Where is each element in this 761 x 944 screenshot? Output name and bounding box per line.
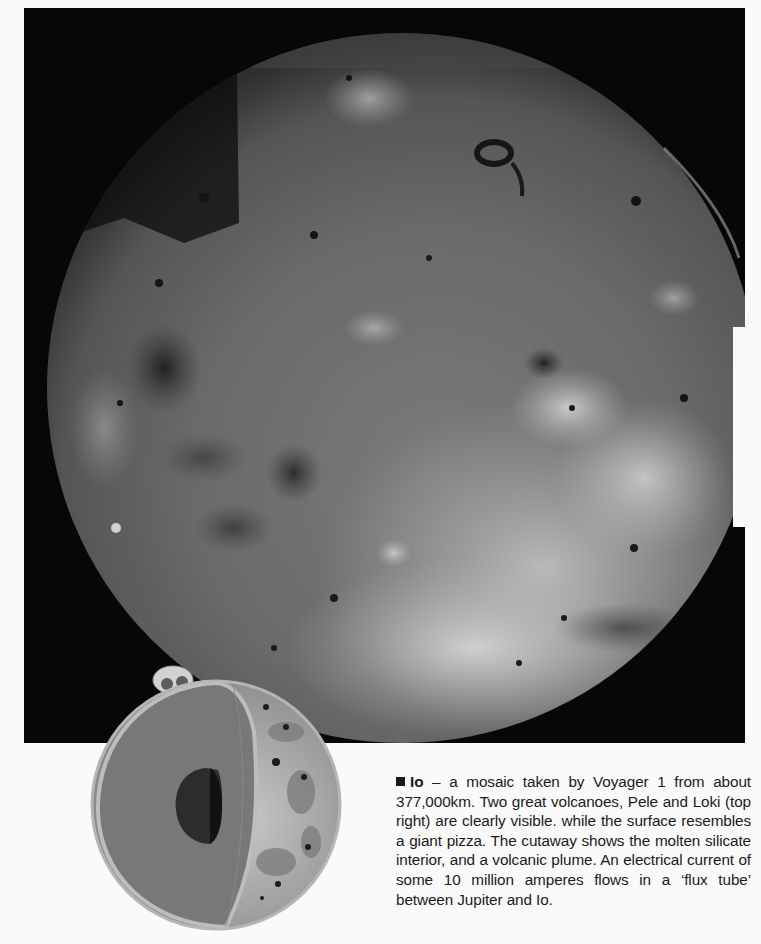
cutaway-diagram — [86, 662, 346, 934]
caption-text: – a mosaic taken by Voyager 1 from about… — [396, 773, 751, 908]
caption-subject: Io — [410, 773, 423, 790]
io-mosaic-photo — [24, 8, 745, 743]
io-cutaway-illustration — [86, 662, 346, 934]
square-bullet-icon — [396, 777, 405, 786]
figure-caption: Io – a mosaic taken by Voyager 1 from ab… — [396, 772, 751, 909]
frame-notch — [733, 327, 747, 527]
io-surface-illustration — [24, 8, 745, 743]
